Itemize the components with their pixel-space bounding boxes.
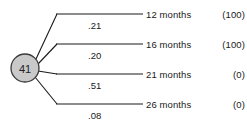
outcome-value-3: (0) <box>233 70 245 80</box>
branch-probability-3: .51 <box>88 81 102 91</box>
outcome-label-1: 12 months <box>146 10 191 20</box>
root-node-label: 41 <box>19 63 31 75</box>
outcome-label-2: 16 months <box>146 40 191 50</box>
branch-probability-4: .08 <box>88 111 102 121</box>
branch-probability-2: .20 <box>88 51 102 61</box>
outcome-value-2: (100) <box>222 40 245 50</box>
outcome-label-3: 21 months <box>146 70 191 80</box>
branch-line-3 <box>38 71 143 74</box>
outcome-row: 26 months (0) <box>146 100 245 110</box>
outcome-row: 16 months (100) <box>146 40 245 50</box>
outcome-value-4: (0) <box>233 100 245 110</box>
outcome-label-4: 26 months <box>146 100 191 110</box>
outcome-row: 12 months (100) <box>146 10 245 20</box>
probability-tree-diagram: 41 .21 .20 .51 .08 12 months (100) 16 mo… <box>0 0 247 133</box>
outcome-row: 21 months (0) <box>146 70 245 80</box>
outcome-value-1: (100) <box>222 10 245 20</box>
tree-graphics: 41 <box>0 0 247 133</box>
branch-probability-1: .21 <box>88 21 102 31</box>
